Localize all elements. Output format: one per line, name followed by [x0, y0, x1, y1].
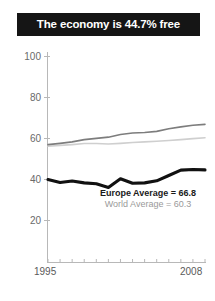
series-line-europe-average	[48, 124, 205, 144]
chart-plot-area: 100 80 60 40 20 1995 2008 Europe Average…	[0, 0, 215, 301]
series-line-country	[48, 170, 205, 188]
y-tick-label-80: 80	[30, 92, 42, 103]
economic-freedom-chart: The economy is 44.7% free 100 80 60 40 2…	[0, 0, 215, 301]
y-tick-label-60: 60	[30, 133, 42, 144]
y-tick-label-40: 40	[30, 174, 42, 185]
annotation-europe-average: Europe Average = 66.8	[100, 188, 196, 198]
y-tick-label-20: 20	[30, 215, 42, 226]
x-tick-label-start: 1995	[34, 266, 57, 277]
x-tick-label-end: 2008	[180, 266, 203, 277]
annotation-world-average: World Average = 60.3	[105, 199, 191, 209]
y-tick-label-100: 100	[24, 51, 41, 62]
